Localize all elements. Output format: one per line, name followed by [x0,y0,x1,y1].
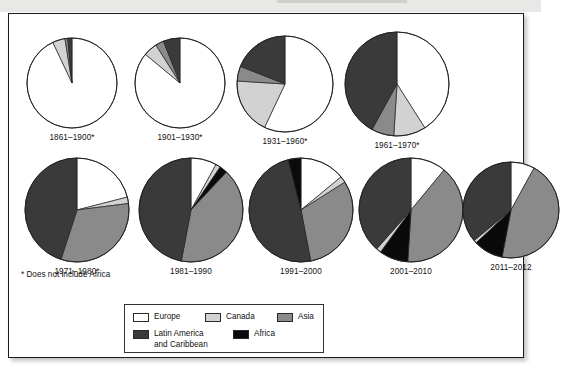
pie-label: 2011–2012 [461,263,561,272]
pie-svg [343,30,451,138]
pie-svg [235,34,335,134]
pie-svg [137,156,245,264]
legend-row-1: Europe Canada Asia [133,312,314,323]
legend-item-asia: Asia [277,312,314,323]
scan-edge-band [0,0,541,12]
pie-label: 1901–1930* [133,133,227,142]
pie-label: 1861–1900* [25,133,119,142]
scan-edge-band-dark [277,0,407,3]
pie-svg [247,156,355,264]
legend-swatch-africa [233,330,249,339]
pie-chart-1861-1900-: 1861–1900* [25,36,119,142]
legend-swatch-europe [133,313,149,322]
pie-chart-1931-1960-: 1931–1960* [235,34,335,146]
legend-item-europe: Europe [133,312,205,323]
legend-label-africa: Africa [254,329,275,340]
pie-slice-latin-america-and-caribbean [139,158,191,261]
legend: Europe Canada Asia Latin America and Car… [124,304,324,353]
pie-chart-2001-2010: 2001–2010 [357,156,465,276]
legend-row-2: Latin America and Caribbean Africa [133,329,275,350]
pie-svg [133,36,227,130]
pie-label: 1961–1970* [343,141,451,150]
legend-label-asia: Asia [298,312,314,323]
pie-chart-1961-1970-: 1961–1970* [343,30,451,150]
pie-svg [23,156,131,264]
legend-label-canada: Canada [226,312,255,323]
pie-svg [357,156,465,264]
pie-chart-1971-1980-: 1971–1980* [23,156,131,276]
pie-label: 1981–1990 [137,267,245,276]
pie-chart-2011-2012: 2011–2012 [461,160,561,272]
pie-svg [461,160,561,260]
pie-label: 1931–1960* [235,137,335,146]
legend-label-latin-america: Latin America and Caribbean [154,329,208,350]
legend-swatch-latin-america [133,330,149,339]
pie-label: 2001–2010 [357,267,465,276]
legend-item-latin-america: Latin America and Caribbean [133,329,233,350]
pie-chart-1991-2000: 1991–2000 [247,156,355,276]
legend-swatch-asia [277,313,293,322]
figure-frame: 1861–1900*1901–1930*1931–1960*1961–1970*… [8,13,524,358]
legend-item-canada: Canada [205,312,277,323]
legend-swatch-canada [205,313,221,322]
footnote: * Does not include Africa [21,270,110,279]
legend-item-africa: Africa [233,329,275,340]
pie-chart-1981-1990: 1981–1990 [137,156,245,276]
pie-svg [25,36,119,130]
pie-chart-1901-1930-: 1901–1930* [133,36,227,142]
pie-label: 1991–2000 [247,267,355,276]
legend-label-europe: Europe [154,312,180,323]
